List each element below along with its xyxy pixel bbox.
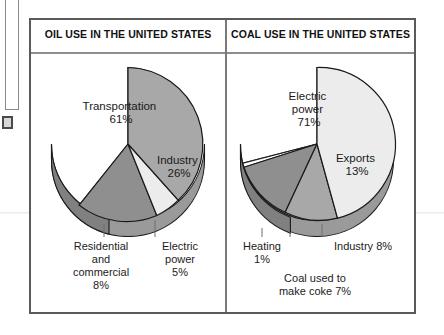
panel-title-oil: OIL USE IN THE UNITED STATES [31,28,225,40]
pie-chart-oil: Transportation 61% Industry 26% [31,52,225,237]
panel-title-coal: COAL USE IN THE UNITED STATES [227,28,414,40]
pie-svg-coal: Electric power 71% Exports 13% [227,52,414,237]
callout-electric-power: Electric power 5% [127,240,233,279]
pie-chart-coal: Electric power 71% Exports 13% [227,52,414,237]
page-scan-chip-artifact [2,116,13,129]
callout-industry-coal: Industry 8% [313,240,413,253]
pie-svg-oil: Transportation 61% Industry 26% [31,52,225,237]
panel-coal: COAL USE IN THE UNITED STATES [227,20,414,312]
page-scan-box-artifact [5,0,19,110]
figure-frame: OIL USE IN THE UNITED STATES [29,18,416,314]
panel-oil: OIL USE IN THE UNITED STATES [31,20,225,312]
callout-coal-used-to-make-coke: Coal used to make coke 7% [239,272,391,298]
callout-heating: Heating 1% [223,240,301,266]
